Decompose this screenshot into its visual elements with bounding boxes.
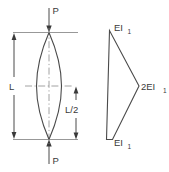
length-dimension-arrow-top: [12, 33, 17, 40]
length-dimension-arrow-bottom: [12, 132, 17, 139]
label-load-bottom: P: [53, 155, 59, 166]
half-length-dimension-arrow-top: [74, 87, 79, 94]
half-length-dimension-arrow-bottom: [74, 133, 79, 140]
label-stiffness-mid-subscript: 1: [163, 87, 167, 94]
stiffness-outline: [107, 31, 140, 140]
label-group: P P L L/2 EI 1 2EI 1 EI 1: [9, 5, 167, 166]
label-half-length: L/2: [65, 104, 78, 115]
label-stiffness-bottom-base: EI: [114, 137, 123, 148]
diagram-canvas: P P L L/2 EI 1 2EI 1 EI 1: [0, 0, 169, 172]
left-diagram-group: [12, 8, 79, 164]
label-stiffness-top-base: EI: [114, 22, 123, 33]
label-length: L: [9, 81, 14, 92]
label-stiffness-mid-base: 2EI: [141, 81, 155, 92]
label-stiffness-bottom-subscript: 1: [128, 143, 132, 150]
label-stiffness-mid: 2EI 1: [141, 81, 167, 94]
label-load-top: P: [53, 5, 59, 16]
label-stiffness-top-subscript: 1: [128, 28, 132, 35]
label-stiffness-top: EI 1: [114, 22, 132, 35]
label-stiffness-bottom: EI 1: [114, 137, 132, 150]
right-diagram-group: [107, 31, 140, 140]
figure-container: P P L L/2 EI 1 2EI 1 EI 1: [0, 0, 169, 172]
